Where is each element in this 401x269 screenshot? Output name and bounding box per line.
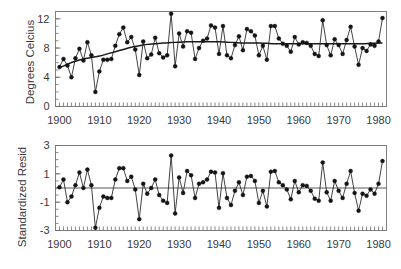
temperature-x-tick-labels: 190019101920193019401950196019701980 xyxy=(47,114,391,126)
data-point-marker xyxy=(173,64,177,68)
data-point-marker xyxy=(377,39,381,43)
chart-panel-temperature: Degrees Celcius 04812 190019101920193019… xyxy=(0,0,401,135)
data-point-marker xyxy=(161,199,165,203)
data-point-marker xyxy=(57,185,61,189)
data-point-marker xyxy=(121,166,125,170)
data-point-marker xyxy=(169,12,173,16)
data-point-marker xyxy=(201,180,205,184)
data-point-marker xyxy=(381,16,385,20)
data-point-marker xyxy=(341,196,345,200)
y-tick-label: 3 xyxy=(43,139,49,151)
data-point-marker xyxy=(129,35,133,39)
data-point-marker xyxy=(181,191,185,195)
x-tick-label: 1930 xyxy=(167,114,191,126)
data-point-marker xyxy=(85,40,89,44)
data-point-marker xyxy=(245,27,249,31)
data-point-marker xyxy=(333,179,337,183)
data-point-marker xyxy=(205,37,209,41)
x-tick-label: 1940 xyxy=(207,114,231,126)
data-point-marker xyxy=(373,44,377,48)
data-point-marker xyxy=(133,48,137,52)
data-point-marker xyxy=(89,183,93,187)
data-point-marker xyxy=(197,182,201,186)
data-point-marker xyxy=(77,47,81,51)
data-point-marker xyxy=(353,45,357,49)
x-tick-label: 1950 xyxy=(247,238,271,250)
data-point-marker xyxy=(213,26,217,30)
data-point-marker xyxy=(281,42,285,46)
data-point-marker xyxy=(197,46,201,50)
data-point-marker xyxy=(209,23,213,27)
residual-plot-svg: Standardized Resid -3-113 19001910192019… xyxy=(0,135,401,269)
data-point-marker xyxy=(205,178,209,182)
data-point-marker xyxy=(65,200,69,204)
data-point-marker xyxy=(321,18,325,22)
data-point-marker xyxy=(149,186,153,190)
data-point-marker xyxy=(253,179,257,183)
data-point-marker xyxy=(61,57,65,61)
data-point-marker xyxy=(285,44,289,48)
x-tick-label: 1900 xyxy=(47,238,71,250)
data-point-marker xyxy=(273,24,277,28)
data-point-marker xyxy=(173,212,177,216)
data-point-marker xyxy=(249,29,253,33)
data-point-marker xyxy=(145,56,149,60)
data-point-marker xyxy=(261,44,265,48)
data-point-marker xyxy=(349,169,353,173)
data-point-marker xyxy=(381,159,385,163)
data-point-marker xyxy=(97,206,101,210)
data-point-marker xyxy=(337,43,341,47)
x-tick-label: 1980 xyxy=(366,114,390,126)
data-point-marker xyxy=(265,204,269,208)
data-point-marker xyxy=(225,53,229,57)
data-point-marker xyxy=(305,41,309,45)
data-point-marker xyxy=(113,178,117,182)
data-point-marker xyxy=(161,56,165,60)
data-point-marker xyxy=(233,189,237,193)
data-point-marker xyxy=(269,170,273,174)
x-tick-label: 1980 xyxy=(366,238,390,250)
data-point-marker xyxy=(193,57,197,61)
temperature-y-tickmarks xyxy=(56,19,61,107)
data-point-marker xyxy=(321,161,325,165)
temperature-data-markers xyxy=(57,12,384,94)
temperature-y-tick-labels: 04812 xyxy=(37,13,49,113)
data-point-marker xyxy=(117,166,121,170)
x-tick-label: 1930 xyxy=(167,238,191,250)
y-tick-label: 1 xyxy=(43,168,49,180)
data-point-marker xyxy=(365,49,369,53)
data-point-marker xyxy=(185,169,189,173)
data-point-marker xyxy=(125,179,129,183)
residual-x-tickmarks xyxy=(59,227,382,231)
data-point-marker xyxy=(81,58,85,62)
data-point-marker xyxy=(325,190,329,194)
data-point-marker xyxy=(261,189,265,193)
data-point-marker xyxy=(345,182,349,186)
data-point-marker xyxy=(349,25,353,29)
data-point-marker xyxy=(121,26,125,30)
data-point-marker xyxy=(125,40,129,44)
data-point-marker xyxy=(165,201,169,205)
data-point-marker xyxy=(293,179,297,183)
data-point-marker xyxy=(305,184,309,188)
data-point-marker xyxy=(109,196,113,200)
data-point-marker xyxy=(137,73,141,77)
data-point-marker xyxy=(73,56,77,60)
data-point-marker xyxy=(177,31,181,35)
data-point-marker xyxy=(249,174,253,178)
y-tick-label: -1 xyxy=(40,196,50,208)
data-point-marker xyxy=(85,168,89,172)
x-tick-label: 1960 xyxy=(287,114,311,126)
data-point-marker xyxy=(65,64,69,68)
data-point-marker xyxy=(77,170,81,174)
data-point-marker xyxy=(361,46,365,50)
y-tick-label: -3 xyxy=(40,224,50,236)
figure-container: Degrees Celcius 04812 190019101920193019… xyxy=(0,0,401,269)
data-point-marker xyxy=(329,53,333,57)
data-point-marker xyxy=(285,187,289,191)
data-point-marker xyxy=(301,40,305,44)
data-point-marker xyxy=(265,58,269,62)
temperature-plot-svg: Degrees Celcius 04812 190019101920193019… xyxy=(0,0,401,135)
data-point-marker xyxy=(309,44,313,48)
data-point-marker xyxy=(277,180,281,184)
